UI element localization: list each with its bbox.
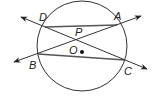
label-p: P <box>75 26 83 38</box>
label-o: O <box>69 44 78 56</box>
label-a: A <box>113 10 121 22</box>
label-c: C <box>124 65 132 77</box>
label-d: D <box>39 11 47 23</box>
geometry-diagram: D A P O B C <box>0 0 158 98</box>
label-b: B <box>29 59 36 71</box>
center-dot-o <box>80 50 84 54</box>
